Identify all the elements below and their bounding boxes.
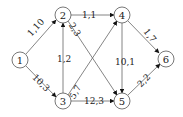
node-6: 6 <box>158 51 174 67</box>
node-3: 3 <box>55 93 71 109</box>
node-4: 4 <box>114 7 130 23</box>
edge-1-2: 1,10 <box>25 17 56 54</box>
edge-5-6: 2,2 <box>128 64 160 95</box>
edge-3-2: 1,2 <box>57 23 71 94</box>
edge-4-6: 1,7 <box>128 21 159 53</box>
edge-label-2-5: 2,3 <box>67 21 83 39</box>
node-1: 1 <box>12 52 28 68</box>
edge-label-3-5: 12,3 <box>84 96 104 106</box>
svg-text:5: 5 <box>119 96 125 107</box>
edge-label-5-6: 2,2 <box>135 72 152 89</box>
svg-text:3: 3 <box>60 96 66 107</box>
edge-label-4-6: 1,7 <box>142 27 159 45</box>
edge-label-3-2: 1,2 <box>57 54 71 64</box>
node-5: 5 <box>114 93 130 109</box>
svg-text:1: 1 <box>17 55 23 66</box>
edge-1-3: 10,3 <box>26 66 56 97</box>
svg-text:4: 4 <box>119 10 125 21</box>
edge-label-4-5: 10,1 <box>115 57 135 67</box>
svg-text:6: 6 <box>163 54 169 65</box>
svg-text:2: 2 <box>60 10 66 21</box>
edge-label-2-4: 1,1 <box>82 10 96 20</box>
edge-4-5: 10,1 <box>115 23 135 93</box>
node-2: 2 <box>55 7 71 23</box>
edge-label-1-3: 10,3 <box>30 72 51 93</box>
edge-2-4: 1,1 <box>71 10 114 20</box>
graph-diagram: 1,10 10,3 1,2 1,1 2,3 5,7 12,3 10,1 1,7 … <box>0 0 183 117</box>
